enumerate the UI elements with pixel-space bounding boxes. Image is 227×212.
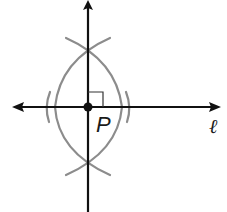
point-p (84, 103, 93, 112)
label-point-p: P (96, 112, 111, 137)
label-line-l: ℓ (209, 114, 218, 138)
construction-diagram: P ℓ (0, 0, 227, 212)
line-l (12, 102, 221, 112)
diagram-svg: P ℓ (0, 0, 227, 212)
